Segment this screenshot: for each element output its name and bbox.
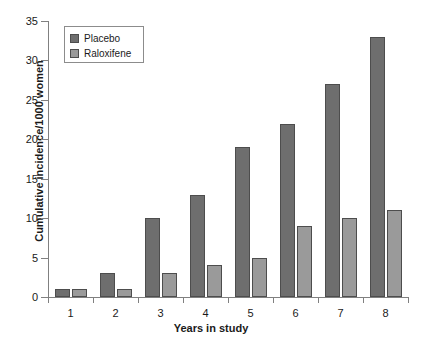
y-tick-mark xyxy=(41,21,48,22)
x-tick-label: 3 xyxy=(141,307,181,319)
x-tick-label: 5 xyxy=(231,307,271,319)
y-tick-label: 15 xyxy=(0,173,38,184)
x-tick-mark xyxy=(48,297,49,303)
x-tick-mark xyxy=(318,297,319,303)
x-tick-label: 7 xyxy=(321,307,361,319)
bar-raloxifene-year-1 xyxy=(72,289,87,297)
x-tick-mark xyxy=(183,297,184,303)
bar-placebo-year-4 xyxy=(190,195,205,298)
legend-item-placebo: Placebo xyxy=(70,31,138,45)
y-tick-mark xyxy=(41,139,48,140)
bar-placebo-year-1 xyxy=(55,289,70,297)
bar-placebo-year-3 xyxy=(145,218,160,297)
bar-raloxifene-year-2 xyxy=(117,289,132,297)
x-tick-label: 1 xyxy=(51,307,91,319)
y-tick-label: 5 xyxy=(0,252,38,263)
bar-raloxifene-year-6 xyxy=(297,226,312,297)
bar-placebo-year-6 xyxy=(280,124,295,297)
legend-swatch-placebo xyxy=(70,34,79,43)
y-tick-label: 35 xyxy=(0,16,38,27)
y-tick-label: 30 xyxy=(0,55,38,66)
x-tick-label: 4 xyxy=(186,307,226,319)
x-tick-label: 2 xyxy=(96,307,136,319)
bar-raloxifene-year-7 xyxy=(342,218,357,297)
x-tick-mark xyxy=(228,297,229,303)
x-tick-mark xyxy=(273,297,274,303)
y-tick-label: 0 xyxy=(0,292,38,303)
legend-label-placebo: Placebo xyxy=(84,33,120,44)
y-tick-mark xyxy=(41,179,48,180)
y-tick-mark xyxy=(41,218,48,219)
chart-legend: Placebo Raloxifene xyxy=(64,26,144,63)
y-tick-label: 25 xyxy=(0,94,38,105)
bar-raloxifene-year-3 xyxy=(162,273,177,297)
x-tick-label: 6 xyxy=(276,307,316,319)
legend-label-raloxifene: Raloxifene xyxy=(84,48,131,59)
bar-placebo-year-2 xyxy=(100,273,115,297)
bar-placebo-year-5 xyxy=(235,147,250,297)
bar-raloxifene-year-4 xyxy=(207,265,222,297)
x-tick-mark xyxy=(408,297,409,303)
bar-placebo-year-8 xyxy=(370,37,385,297)
x-tick-label: 8 xyxy=(366,307,406,319)
bar-raloxifene-year-8 xyxy=(387,210,402,297)
legend-item-raloxifene: Raloxifene xyxy=(70,46,138,60)
y-tick-mark xyxy=(41,258,48,259)
y-tick-label: 10 xyxy=(0,213,38,224)
x-tick-mark xyxy=(363,297,364,303)
x-tick-mark xyxy=(93,297,94,303)
y-tick-mark xyxy=(41,60,48,61)
y-tick-label: 20 xyxy=(0,134,38,145)
bar-raloxifene-year-5 xyxy=(252,258,267,297)
y-tick-mark xyxy=(41,100,48,101)
legend-swatch-raloxifene xyxy=(70,49,79,58)
x-tick-mark xyxy=(138,297,139,303)
bar-chart: Cumulative incidence/1000 women 05101520… xyxy=(0,0,422,343)
bar-placebo-year-7 xyxy=(325,84,340,297)
y-tick-mark xyxy=(41,297,48,298)
x-axis-title: Years in study xyxy=(0,322,422,334)
